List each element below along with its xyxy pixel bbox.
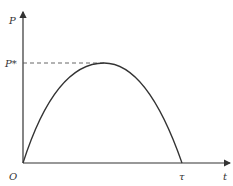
x-axis-label: t <box>223 171 228 182</box>
power-curve <box>23 63 182 163</box>
y-axis-label: P <box>8 15 16 26</box>
power-time-diagram: P P* O τ t <box>0 0 233 186</box>
tau-label: τ <box>179 171 185 182</box>
peak-label: P* <box>4 58 17 69</box>
origin-label: O <box>9 171 17 182</box>
